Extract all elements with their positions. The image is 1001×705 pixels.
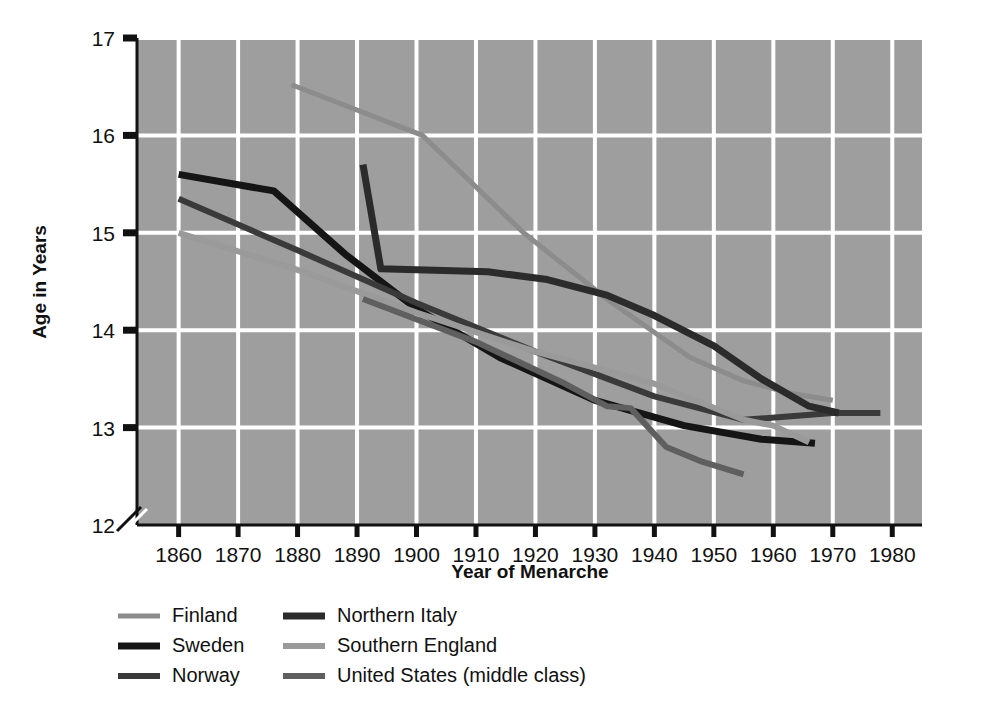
x-tick-label: 1870 (215, 543, 262, 566)
x-tick-label: 1860 (155, 543, 202, 566)
menarche-age-line-chart: 121314151617 186018701880189019001910192… (0, 0, 1001, 705)
x-axis-title: Year of Menarche (451, 561, 608, 582)
x-tick-label: 1880 (274, 543, 321, 566)
legend-label-united-states-middle-class: United States (middle class) (337, 664, 586, 686)
x-tick-label: 1960 (750, 543, 797, 566)
legend-label-southern-england: Southern England (337, 634, 497, 656)
x-tick-label: 1950 (690, 543, 737, 566)
y-tick-label: 14 (92, 319, 116, 342)
chart-page: 121314151617 186018701880189019001910192… (0, 0, 1001, 705)
legend-label-northern-italy: Northern Italy (337, 604, 457, 626)
plot-area-background (137, 38, 922, 525)
chart-canvas: 121314151617 186018701880189019001910192… (0, 0, 1001, 705)
y-tick-label: 17 (92, 27, 115, 50)
x-tick-label: 1940 (631, 543, 678, 566)
y-tick-label: 12 (92, 514, 115, 537)
x-tick-label: 1970 (809, 543, 856, 566)
y-tick-label: 15 (92, 222, 115, 245)
x-tick-label: 1890 (334, 543, 381, 566)
x-tick-label: 1980 (869, 543, 916, 566)
x-tick-label: 1900 (393, 543, 440, 566)
y-tick-label: 16 (92, 124, 115, 147)
y-axis-title: Age in Years (29, 225, 50, 339)
y-tick-label: 13 (92, 417, 115, 440)
legend-label-finland: Finland (172, 604, 238, 626)
plot-area-rect (137, 38, 922, 525)
legend-label-sweden: Sweden (172, 634, 244, 656)
legend-label-norway: Norway (172, 664, 240, 686)
